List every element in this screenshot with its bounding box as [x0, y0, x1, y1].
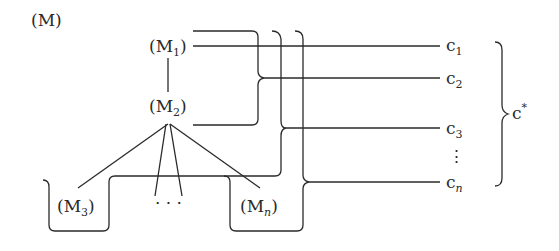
group-brace — [495, 42, 508, 186]
node-mn: (Mn) — [240, 196, 278, 219]
group-label-cstar: c* — [512, 101, 528, 123]
svg-text:c*: c* — [512, 101, 528, 123]
node-m2: (M2) — [149, 96, 187, 119]
wire-brace-cn — [224, 31, 309, 231]
svg-text:(Mn): (Mn) — [240, 196, 278, 219]
edge-m2-m3 — [78, 124, 168, 188]
diagram-canvas: (M) (M1) (M2) (M3) · · · (Mn) c1 c2 c3 ⋮… — [0, 0, 559, 251]
edge-m2-ellipsis-left — [155, 124, 166, 196]
node-m1: (M1) — [149, 36, 187, 59]
svg-text:cn: cn — [446, 172, 463, 195]
node-m3: (M3) — [57, 196, 95, 219]
svg-text:c1: c1 — [446, 35, 463, 58]
svg-text:c2: c2 — [446, 68, 463, 91]
wire-brace-m1-m2 — [193, 31, 264, 125]
svg-text:(M2): (M2) — [149, 96, 187, 119]
node-ellipsis: · · · — [155, 193, 182, 213]
svg-text:(M3): (M3) — [57, 196, 95, 219]
vertical-ellipsis: ⋮ — [448, 146, 465, 166]
diagram-title: (M) — [31, 10, 62, 30]
output-c1: c1 — [446, 35, 463, 58]
output-c2: c2 — [446, 68, 463, 91]
output-cn: cn — [446, 172, 463, 195]
edge-m2-ellipsis-right — [170, 124, 182, 196]
output-c3: c3 — [446, 118, 463, 141]
svg-text:c3: c3 — [446, 118, 463, 141]
edge-m2-mn — [170, 124, 260, 188]
svg-text:(M1): (M1) — [149, 36, 187, 59]
